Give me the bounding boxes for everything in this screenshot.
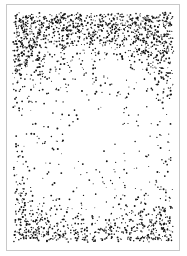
stippled-burst-illustration bbox=[0, 0, 187, 256]
